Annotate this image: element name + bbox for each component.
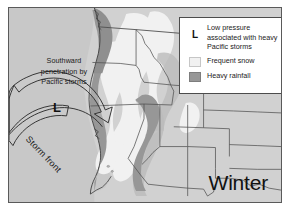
legend-label-low-pressure: Low pressure associated with heavy Pacif… <box>206 23 277 52</box>
legend-low-pressure-letter: L <box>192 30 198 40</box>
legend-label-frequent-snow: Frequent snow <box>206 56 255 66</box>
map-legend: L Low pressure associated with heavy Pac… <box>179 17 282 94</box>
legend-key-frequent-snow <box>184 56 206 67</box>
legend-key-heavy-rainfall <box>184 71 206 82</box>
island-marker-2 <box>111 170 113 172</box>
low-pressure-marker: L <box>53 101 61 114</box>
southward-note-line-3: Pacific storms <box>23 77 105 88</box>
southward-note-line-1: Southward <box>23 56 105 67</box>
winter-precipitation-figure: Southward penetration by Pacific storms … <box>0 0 290 212</box>
legend-low-line-1: Low pressure <box>207 23 277 33</box>
heavy-rainfall-swatch <box>189 72 201 82</box>
map-frame: Southward penetration by Pacific storms … <box>8 7 282 203</box>
legend-low-line-2: associated with heavy <box>207 33 277 43</box>
legend-key-low-pressure: L <box>184 23 206 40</box>
island-marker-1 <box>107 165 110 167</box>
legend-item-low-pressure: L Low pressure associated with heavy Pac… <box>184 23 282 52</box>
legend-item-frequent-snow: Frequent snow <box>184 56 282 67</box>
southward-note-line-2: penetration by <box>23 67 105 78</box>
southward-penetration-annotation: Southward penetration by Pacific storms <box>23 56 105 88</box>
legend-label-heavy-rainfall: Heavy rainfall <box>206 71 251 81</box>
frequent-snow-swatch <box>189 57 201 67</box>
season-label: Winter <box>209 172 268 193</box>
legend-item-heavy-rainfall: Heavy rainfall <box>184 71 282 82</box>
legend-low-line-3: Pacific storms <box>207 42 277 52</box>
